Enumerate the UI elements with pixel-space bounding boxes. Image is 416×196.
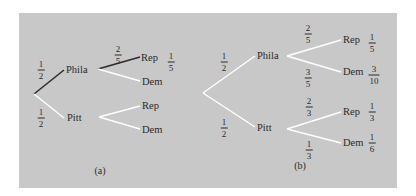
edge-a-phila-dem (98, 69, 140, 81)
prob-a-phila-rep: 25 (115, 45, 122, 66)
node-a-pitt: Pitt (67, 113, 82, 124)
edge-b-phila-rep (287, 40, 341, 56)
edge-b-root-phila (203, 56, 255, 93)
outcome-a-phila-rep: 15 (168, 52, 175, 73)
prob-b-phila: 12 (221, 52, 228, 73)
node-a-pitt-dem: Dem (142, 125, 162, 136)
prob-a-phila: 12 (38, 60, 45, 81)
node-b-phila-dem: Dem (343, 67, 363, 78)
edge-b-pitt-rep (287, 112, 341, 129)
outcome-b-pitt-dem: 16 (369, 133, 376, 154)
outcome-b-phila-rep: 15 (369, 33, 376, 54)
edge-b-pitt-dem (287, 129, 341, 143)
outcome-b-phila-dem: 310 (369, 65, 380, 86)
node-b-pitt: Pitt (257, 123, 272, 134)
node-a-phila-rep: Rep (141, 53, 158, 64)
outcome-b-pitt-rep: 13 (369, 102, 376, 123)
caption-b: (b) (294, 160, 306, 171)
prob-b-pitt-dem: 13 (306, 140, 313, 161)
prob-b-phila-dem: 35 (305, 68, 312, 89)
tree-edges (0, 0, 416, 196)
prob-b-pitt-rep: 23 (306, 97, 313, 118)
prob-b-pitt: 12 (221, 118, 228, 139)
node-b-phila: Phila (257, 51, 279, 62)
edge-b-root-pitt (203, 93, 255, 127)
prob-a-pitt: 12 (38, 108, 45, 129)
node-b-pitt-rep: Rep (343, 107, 360, 118)
node-a-phila-dem: Dem (142, 77, 162, 88)
edge-b-phila-dem (287, 56, 341, 72)
node-a-phila: Phila (66, 65, 88, 76)
node-a-pitt-rep: Rep (142, 101, 159, 112)
edge-a-pitt-rep (99, 106, 140, 117)
caption-a: (a) (94, 165, 105, 176)
edge-a-pitt-dem (99, 117, 140, 129)
node-b-phila-rep: Rep (343, 35, 360, 46)
prob-b-phila-rep: 25 (305, 24, 312, 45)
node-b-pitt-dem: Dem (343, 138, 363, 149)
